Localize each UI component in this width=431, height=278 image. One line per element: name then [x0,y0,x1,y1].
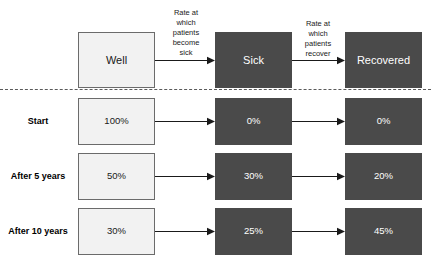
arrow-row-after-5-years-sick-to-recovered [292,172,345,181]
value-after-5-years-sick: 30% [215,153,292,200]
row-label-after-5-years: After 5 years [4,153,72,200]
state-box-recovered: Recovered [345,32,422,88]
value-after-5-years-recovered: 20% [345,153,422,200]
value-start-well: 100% [78,98,155,145]
section-divider [0,89,431,90]
state-box-sick: Sick [215,32,292,88]
arrow-row-after-5-years-well-to-sick [155,172,215,181]
value-after-10-years-recovered: 45% [345,208,422,255]
annotation-become-sick: Rate at which patients become sick [160,8,212,57]
arrow-row-after-10-years-sick-to-recovered [292,227,345,236]
value-after-10-years-sick: 25% [215,208,292,255]
diagram-canvas: Well Sick Recovered Rate at which patien… [0,0,431,278]
arrow-row-start-sick-to-recovered [292,117,345,126]
value-start-sick: 0% [215,98,292,145]
arrow-row-after-10-years-well-to-sick [155,227,215,236]
row-label-after-10-years: After 10 years [4,208,72,255]
annotation-recover: Rate at which patients recover [292,19,344,59]
state-box-well: Well [78,32,155,88]
value-after-10-years-well: 30% [78,208,155,255]
arrow-row-start-well-to-sick [155,117,215,126]
value-after-5-years-well: 50% [78,153,155,200]
value-start-recovered: 0% [345,98,422,145]
row-label-start: Start [4,98,72,145]
